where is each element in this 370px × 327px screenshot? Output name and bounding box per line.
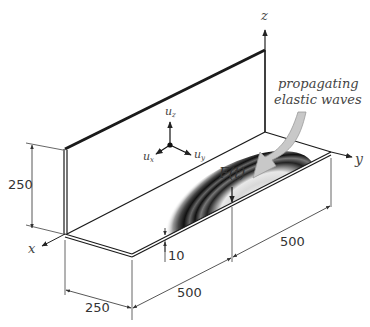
force-label: F(t) [218,165,245,181]
callout-line2: elastic waves [274,92,362,107]
l-plate-diagram: z y x uz uy ux [0,0,370,327]
displacement-triad: uz uy ux [143,105,206,164]
dimension-length-front: 500 [133,258,231,308]
callout-line1: propagating [278,76,359,91]
x-axis-label: x [28,241,36,256]
uy-label: uy [194,148,206,162]
length-back-value: 500 [280,234,305,249]
vertical-plate [64,50,265,235]
uz-label: uz [165,105,176,119]
y-axis-label: y [354,151,364,167]
dimension-width-x: 250 [66,290,131,315]
y-axis: y [331,151,364,167]
z-axis-label: z [260,8,268,23]
width-x-value: 250 [85,300,110,315]
z-axis: z [260,8,268,132]
ux-label: ux [143,150,154,164]
dimension-length-back: 500 [233,206,330,257]
x-axis: x [28,234,65,256]
dimension-height: 250 [8,143,63,234]
length-front-value: 500 [177,285,202,300]
thickness-value: 10 [168,248,185,263]
height-value: 250 [8,177,33,192]
